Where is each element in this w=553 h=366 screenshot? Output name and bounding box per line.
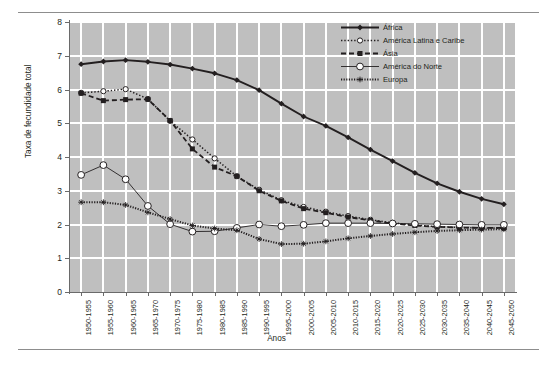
- data-point-marker: [322, 220, 329, 227]
- y-tick-mark: [65, 292, 69, 293]
- x-tick-label: 2010-2015: [351, 300, 360, 335]
- x-tick-label: 2040-2045: [485, 300, 494, 335]
- data-point-marker: [123, 202, 129, 208]
- y-tick-label: 7: [42, 51, 62, 61]
- data-point-marker: [167, 62, 173, 68]
- x-tick-label: 1950-1955: [84, 300, 93, 335]
- legend-item-label: Europa: [383, 76, 408, 84]
- legend-item-label: América Latina e Caribe: [383, 37, 464, 45]
- x-tick-label: 2015-2020: [373, 300, 382, 335]
- data-point-marker: [323, 210, 328, 215]
- x-tick-mark: [215, 292, 216, 296]
- data-point-marker: [123, 87, 128, 92]
- data-point-marker: [367, 233, 373, 239]
- legend-key-icon: [340, 22, 380, 33]
- legend-item-5[interactable]: Europa: [340, 73, 464, 86]
- x-tick-label: 1985-1990: [240, 300, 249, 335]
- data-point-marker: [78, 171, 85, 178]
- data-point-marker: [100, 59, 106, 65]
- y-tick-mark: [65, 225, 69, 226]
- data-point-marker: [145, 209, 151, 215]
- data-point-marker: [390, 231, 396, 237]
- x-tick-mark: [437, 292, 438, 296]
- data-point-marker: [144, 203, 151, 210]
- x-tick-mark: [415, 292, 416, 296]
- data-point-marker: [357, 25, 363, 31]
- data-point-marker: [411, 220, 418, 227]
- legend-item-1[interactable]: África: [340, 21, 464, 34]
- x-tick-label: 2025-2030: [418, 300, 427, 335]
- x-axis-line: [69, 292, 517, 293]
- legend-item-2[interactable]: América Latina e Caribe: [340, 34, 464, 47]
- x-tick-mark: [348, 292, 349, 296]
- data-point-marker: [234, 77, 240, 83]
- data-point-marker: [434, 180, 440, 186]
- data-point-marker: [234, 174, 239, 179]
- chart-page: Taxa de fecundidade total 012345678 1950…: [0, 0, 553, 366]
- x-axis-title: Anos: [0, 334, 553, 343]
- legend-key-icon: [340, 48, 380, 59]
- series-3: [79, 91, 507, 231]
- y-tick-mark: [65, 157, 69, 158]
- series-5: [78, 199, 507, 247]
- data-point-marker: [479, 227, 485, 233]
- chart-legend: ÁfricaAmérica Latina e CaribeÁsiaAmérica…: [340, 21, 464, 86]
- data-point-marker: [278, 223, 285, 230]
- legend-item-4[interactable]: América do Norte: [340, 60, 464, 73]
- data-point-marker: [358, 51, 363, 56]
- data-point-marker: [357, 77, 363, 83]
- x-tick-label: 1980-1985: [218, 300, 227, 335]
- data-point-marker: [479, 196, 485, 202]
- x-tick-mark: [281, 292, 282, 296]
- y-axis-title: Taxa de fecundidade total: [24, 65, 33, 158]
- x-tick-label: 1990-1995: [262, 300, 271, 335]
- data-point-marker: [189, 228, 196, 235]
- y-tick-mark: [65, 123, 69, 124]
- y-tick-mark: [65, 258, 69, 259]
- y-tick-label: 0: [42, 287, 62, 297]
- data-point-marker: [434, 221, 441, 228]
- legend-item-3[interactable]: Ásia: [340, 47, 464, 60]
- y-tick-mark: [65, 56, 69, 57]
- data-point-marker: [168, 118, 173, 123]
- data-point-marker: [257, 188, 262, 193]
- data-point-marker: [189, 223, 195, 229]
- x-tick-mark: [482, 292, 483, 296]
- data-point-marker: [357, 38, 362, 43]
- data-point-marker: [190, 137, 195, 142]
- x-tick-label: 2030-2035: [440, 300, 449, 335]
- data-point-marker: [145, 59, 151, 65]
- legend-key-icon: [340, 61, 380, 72]
- top-divider-rule: [18, 12, 539, 13]
- data-point-marker: [346, 215, 351, 220]
- x-tick-mark: [170, 292, 171, 296]
- series-4: [78, 162, 508, 235]
- data-point-marker: [345, 235, 351, 241]
- data-point-marker: [101, 89, 106, 94]
- data-point-marker: [300, 221, 307, 228]
- data-point-marker: [123, 57, 129, 63]
- data-point-marker: [122, 176, 129, 183]
- x-tick-mark: [393, 292, 394, 296]
- data-point-marker: [212, 226, 218, 232]
- x-tick-label: 1995-2000: [284, 300, 293, 335]
- series-line: [81, 165, 504, 231]
- x-tick-mark: [304, 292, 305, 296]
- x-tick-label: 1960-1965: [129, 300, 138, 335]
- y-tick-label: 8: [42, 17, 62, 27]
- x-tick-label: 2000-2005: [307, 300, 316, 335]
- legend-key-icon: [340, 35, 380, 46]
- x-tick-label: 1965-1970: [151, 300, 160, 335]
- x-tick-mark: [81, 292, 82, 296]
- y-tick-mark: [65, 191, 69, 192]
- legend-item-label: América do Norte: [383, 63, 442, 71]
- data-point-marker: [367, 220, 374, 227]
- data-point-marker: [345, 220, 352, 227]
- data-point-marker: [389, 220, 396, 227]
- y-tick-label: 6: [42, 85, 62, 95]
- data-point-marker: [279, 198, 284, 203]
- data-point-marker: [100, 162, 107, 169]
- data-point-marker: [301, 241, 307, 247]
- x-tick-label: 2005-2010: [329, 300, 338, 335]
- x-tick-mark: [504, 292, 505, 296]
